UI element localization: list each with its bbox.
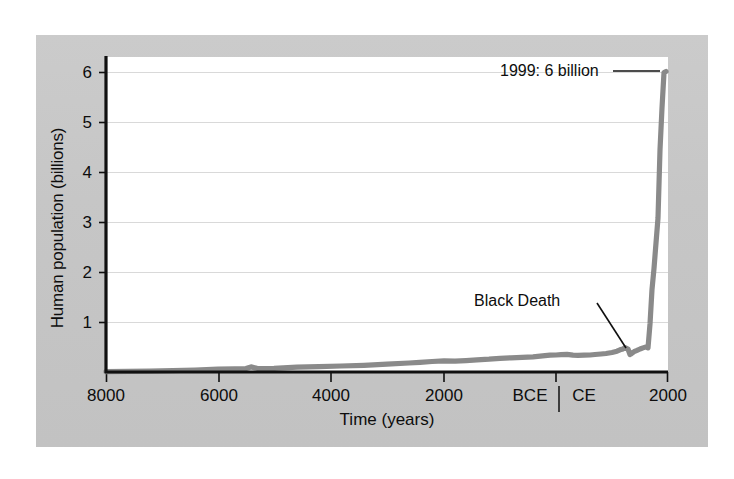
- x-axis-title: Time (years): [106, 410, 668, 430]
- population-curve: [106, 72, 666, 372]
- annotation-1999-6-billion: 1999: 6 billion: [500, 62, 599, 80]
- x-tick-label-2000-ce: 2000: [628, 386, 708, 406]
- x-tick-label-bce: BCE: [503, 386, 557, 406]
- gridlines: [106, 73, 668, 323]
- population-line-chart: [0, 0, 734, 479]
- x-tick-label-6000-bce: 6000: [179, 386, 259, 406]
- x-tick-label-2000-bce: 2000: [404, 386, 484, 406]
- annotation-black-death: Black Death: [474, 292, 560, 310]
- black-death-leader-line: [597, 303, 626, 348]
- x-tick-label-ce: CE: [562, 386, 606, 406]
- y-axis-title: Human population (billions): [48, 78, 68, 378]
- figure-canvas: 6 5 4 3 2 1 8000 6000 4000 2000 BCE CE 2…: [0, 0, 734, 479]
- x-tick-label-8000-bce: 8000: [66, 386, 146, 406]
- axis-lines: [105, 56, 668, 373]
- x-tick-label-4000-bce: 4000: [291, 386, 371, 406]
